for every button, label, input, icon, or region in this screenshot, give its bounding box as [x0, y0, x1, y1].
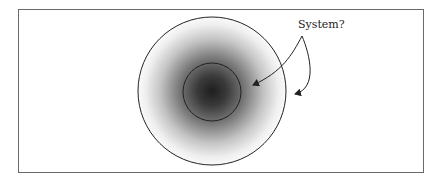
- outer-circle: [138, 17, 286, 165]
- system-boundary-diagram: [0, 0, 437, 184]
- system-question-label: System?: [298, 18, 345, 31]
- diagram-canvas: System?: [0, 0, 437, 184]
